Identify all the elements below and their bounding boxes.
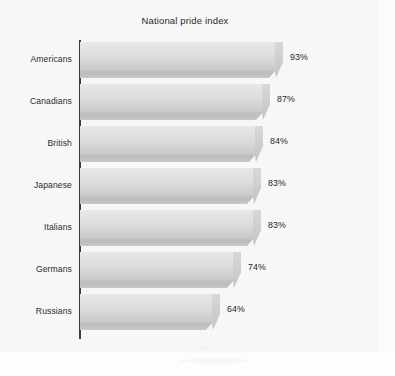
bar-bevel-edge bbox=[275, 42, 283, 78]
value-label: 87% bbox=[277, 94, 295, 104]
value-label: 93% bbox=[290, 52, 308, 62]
bar-shadow bbox=[80, 112, 270, 120]
category-label: Italians bbox=[0, 222, 72, 232]
bar-body bbox=[80, 42, 283, 70]
bar-canadians bbox=[80, 84, 270, 120]
bar-bevel-edge bbox=[255, 126, 263, 162]
bar-italians bbox=[80, 210, 261, 246]
bar-russians bbox=[80, 294, 220, 330]
bar-bevel-edge bbox=[233, 252, 241, 288]
bar-body bbox=[80, 252, 241, 280]
bar-british bbox=[80, 126, 263, 162]
bar-bevel-edge bbox=[212, 294, 220, 330]
plot-area: Americans 93% Canadians 87% British bbox=[0, 0, 395, 376]
value-label: 74% bbox=[248, 262, 266, 272]
category-label: Germans bbox=[0, 264, 72, 274]
bar-bevel-edge bbox=[262, 84, 270, 120]
bar-shadow bbox=[80, 154, 263, 162]
value-label: 83% bbox=[268, 178, 286, 188]
bar-body bbox=[80, 84, 270, 112]
bar-body bbox=[80, 210, 261, 238]
category-label: Americans bbox=[0, 54, 72, 64]
value-label: 83% bbox=[268, 220, 286, 230]
bar-shadow bbox=[80, 196, 261, 204]
bar-body bbox=[80, 126, 263, 154]
category-label: Japanese bbox=[0, 180, 72, 190]
value-label: 84% bbox=[270, 136, 288, 146]
category-label: Russians bbox=[0, 306, 72, 316]
bar-body bbox=[80, 168, 261, 196]
bar-bevel-edge bbox=[253, 168, 261, 204]
bar-bevel-edge bbox=[253, 210, 261, 246]
bar-body bbox=[80, 294, 220, 322]
bar-shadow bbox=[80, 322, 220, 330]
value-label: 64% bbox=[227, 304, 245, 314]
category-label: Canadians bbox=[0, 96, 72, 106]
bar-shadow bbox=[80, 238, 261, 246]
bar-germans bbox=[80, 252, 241, 288]
bar-americans bbox=[80, 42, 283, 78]
category-label: British bbox=[0, 138, 72, 148]
bar-shadow bbox=[80, 280, 241, 288]
bar-japanese bbox=[80, 168, 261, 204]
chart-container: National pride index Americans 93% Canad… bbox=[0, 0, 395, 376]
bar-shadow bbox=[80, 70, 283, 78]
